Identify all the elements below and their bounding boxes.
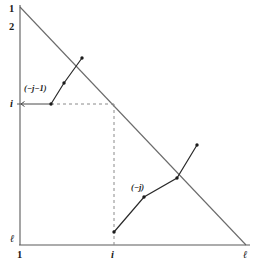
y-axis-label-l: ℓ [10, 234, 15, 245]
series-upper-annotation: (−j−1) [24, 84, 47, 93]
y-axis-label-2: 2 [9, 22, 14, 33]
figure-container: 1 2 i ℓ 1 i ℓ (−j−1) (−j) [0, 0, 266, 268]
plot-canvas [0, 0, 266, 268]
series-upper-point [62, 81, 65, 84]
series-upper-point [49, 102, 52, 105]
series-upper-point [80, 56, 83, 59]
x-axis-label-l: ℓ [243, 250, 248, 261]
y-axis-label-1: 1 [9, 4, 14, 15]
series-lower-annotation: (−j) [131, 183, 144, 192]
series-lower-point [195, 143, 198, 146]
series-lower-point [175, 176, 178, 179]
y-axis-label-i: i [10, 99, 13, 110]
series-lower-point [112, 230, 115, 233]
series-lower-point [142, 195, 145, 198]
series-upper-polyline [51, 58, 82, 104]
x-axis-label-i: i [111, 250, 114, 261]
x-axis-label-1: 1 [17, 250, 22, 261]
series-lower-polyline [114, 145, 197, 232]
